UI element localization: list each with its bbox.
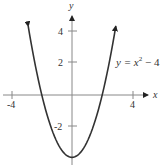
y-tick-label-2: 2: [58, 57, 63, 68]
y-axis-label: y: [68, 0, 74, 11]
x-tick-label-neg4: -4: [7, 99, 15, 110]
equation-label: y = x2 − 4: [115, 55, 160, 68]
x-axis-label: x: [152, 89, 158, 100]
y-tick-label-4: 4: [58, 26, 63, 37]
parabola-chart: y x -4 4 4 2 -2 y = x2 − 4: [0, 0, 166, 167]
x-tick-label-4: 4: [130, 99, 135, 110]
y-tick-label-neg2: -2: [54, 121, 62, 132]
